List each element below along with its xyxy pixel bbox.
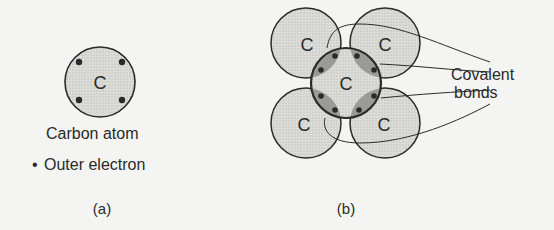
electron-icon (371, 93, 377, 99)
atom-symbol-bottom-left: C (298, 115, 311, 135)
atom-symbol-top-left: C (301, 35, 314, 55)
atom-symbol-center: C (340, 74, 353, 94)
panel-b-label: (b) (337, 200, 355, 217)
outer-electron-icon (119, 97, 125, 103)
carbon-bonding-diagram: C Carbon atom • Outer electron (a) (0, 0, 554, 230)
atom-symbol-bottom-right: C (378, 115, 391, 135)
atom-symbol-top-right: C (379, 35, 392, 55)
electron-icon (354, 53, 360, 59)
callout-line-2: bonds (454, 84, 498, 101)
electron-icon (318, 67, 324, 73)
electron-icon (332, 107, 338, 113)
atom-symbol: C (94, 73, 107, 93)
legend-bullet-icon: • (32, 156, 38, 173)
panel-b: C C C C C Covalent bonds (b) (271, 8, 515, 217)
atom-caption: Carbon atom (46, 125, 139, 142)
legend-text: Outer electron (44, 156, 145, 173)
outer-electron-icon (76, 59, 82, 65)
outer-electron-icon (119, 59, 125, 65)
callout-line-1: Covalent (451, 66, 515, 83)
panel-a: C Carbon atom • Outer electron (a) (32, 47, 145, 217)
electron-icon (371, 67, 377, 73)
electron-icon (356, 107, 362, 113)
panel-a-label: (a) (93, 200, 111, 217)
electron-icon (318, 93, 324, 99)
electron-icon (332, 53, 338, 59)
outer-electron-icon (76, 97, 82, 103)
